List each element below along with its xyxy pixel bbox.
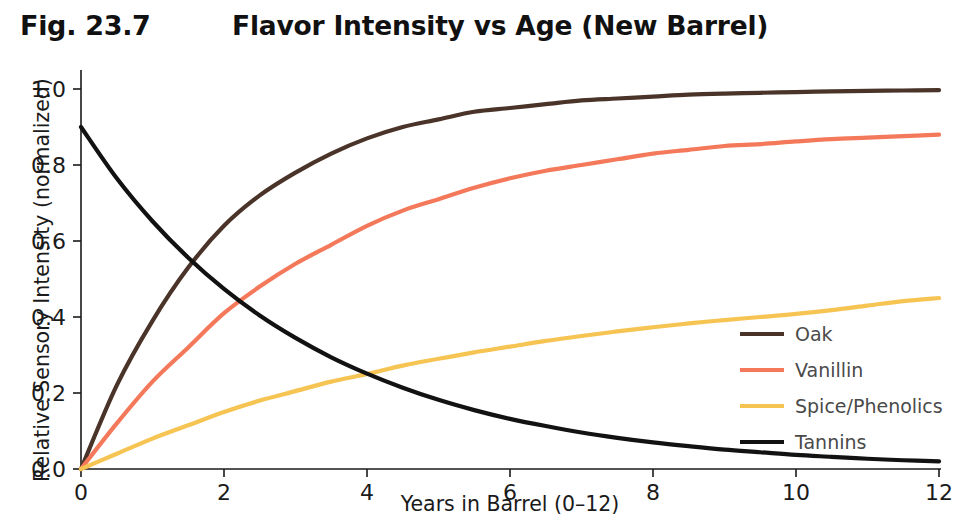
- legend-label-vanillin: Vanillin: [795, 359, 863, 381]
- y-axis-label: Relative Sensory Intensity (normalized): [30, 70, 54, 490]
- legend-label-oak: Oak: [795, 323, 833, 345]
- figure-container: Fig. 23.7 Flavor Intensity vs Age (New B…: [0, 0, 954, 521]
- chart-plot: 024681012 0.00.20.40.60.81.0 OakVanillin…: [0, 0, 954, 521]
- x-axis-label: Years in Barrel (0–12): [81, 492, 939, 516]
- legend-label-tannins: Tannins: [794, 431, 866, 453]
- chart-legend: OakVanillinSpice/PhenolicsTannins: [740, 323, 943, 453]
- legend-label-spice-phenolics: Spice/Phenolics: [795, 395, 943, 417]
